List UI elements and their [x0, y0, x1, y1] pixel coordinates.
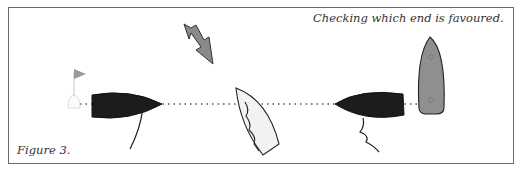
pin-mark-icon: [68, 69, 86, 108]
right-dark-boat-icon: [335, 92, 404, 152]
start-line-diagram: [0, 0, 530, 170]
committee-boat-icon: [418, 37, 444, 114]
figure-title: Checking which end is favoured.: [313, 11, 504, 25]
figure-label: Figure 3.: [17, 143, 70, 157]
center-white-boat-icon: [236, 88, 279, 155]
left-dark-boat-icon: [92, 93, 162, 149]
wind-arrow-icon: [184, 24, 213, 64]
